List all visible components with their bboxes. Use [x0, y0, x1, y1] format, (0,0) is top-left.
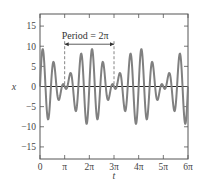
y-tick-label: −15 [21, 142, 36, 152]
signal-curve [40, 49, 188, 124]
y-tick-label: 15 [27, 21, 37, 31]
x-axis-label: t [113, 170, 116, 181]
x-tick-label: 2π [85, 162, 95, 172]
x-tick-label: 6π [183, 162, 193, 172]
series-line [40, 49, 188, 124]
arrow-head-right [110, 42, 114, 46]
y-tick-label: 5 [31, 62, 36, 72]
y-tick-label: 0 [31, 82, 36, 92]
y-tick-label: −10 [21, 122, 36, 132]
y-tick-label: −5 [26, 102, 36, 112]
period-label: Period = 2π [62, 30, 109, 41]
y-tick-label: 10 [27, 42, 37, 52]
x-tick-label: 5π [159, 162, 169, 172]
y-axis-label: x [11, 81, 17, 92]
x-tick-label: 4π [134, 162, 144, 172]
x-tick-label: π [62, 162, 67, 172]
x-tick-label: 0 [38, 162, 43, 172]
arrow-head-left [65, 42, 69, 46]
chart: 151050−5−10−150π2π3π4π5π6π Period = 2π t… [0, 0, 200, 181]
